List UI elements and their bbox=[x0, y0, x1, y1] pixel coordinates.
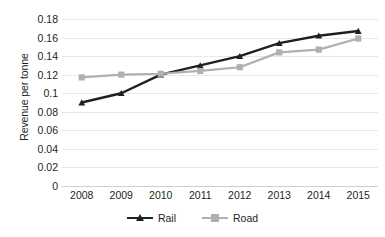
gridline bbox=[62, 186, 378, 187]
series-road bbox=[79, 35, 362, 80]
y-axis-tick-label: 0.1 bbox=[22, 88, 58, 98]
data-point-marker bbox=[158, 71, 164, 77]
legend-square-marker-icon bbox=[211, 214, 219, 222]
series-line bbox=[82, 31, 359, 102]
y-axis-tick-label: 0.04 bbox=[22, 144, 58, 154]
legend-label: Rail bbox=[158, 213, 176, 224]
y-axis-tick-label: 0.14 bbox=[22, 51, 58, 61]
chart-legend: RailRoad bbox=[0, 209, 385, 227]
legend-item-road[interactable]: Road bbox=[202, 213, 258, 224]
x-axis-tick-label: 2015 bbox=[335, 189, 381, 202]
x-axis-tick-labels: 20082009201020112012201320142015 bbox=[62, 189, 378, 205]
data-point-marker bbox=[197, 68, 203, 74]
legend-triangle-marker-icon bbox=[136, 214, 144, 221]
legend-swatch-road-icon bbox=[202, 213, 228, 224]
plot-area bbox=[62, 19, 378, 186]
data-point-marker bbox=[276, 49, 282, 55]
legend-swatch-rail-icon bbox=[127, 213, 153, 224]
y-axis-tick-label: 0.02 bbox=[22, 162, 58, 172]
y-axis-tick-label: 0.18 bbox=[22, 14, 58, 24]
y-axis-tick-label: 0 bbox=[22, 181, 58, 191]
data-point-marker bbox=[355, 35, 361, 41]
data-point-marker bbox=[316, 47, 322, 53]
y-axis-tick-labels: 00.020.040.060.080.10.120.140.160.18 bbox=[22, 19, 58, 186]
data-point-marker bbox=[79, 74, 85, 80]
series-rail bbox=[78, 28, 361, 106]
legend-label: Road bbox=[233, 213, 258, 224]
legend-item-rail[interactable]: Rail bbox=[127, 213, 176, 224]
series-canvas bbox=[62, 19, 378, 186]
data-point-marker bbox=[237, 64, 243, 70]
data-point-marker bbox=[118, 72, 124, 78]
y-axis-tick-label: 0.16 bbox=[22, 33, 58, 43]
y-axis-tick-label: 0.06 bbox=[22, 125, 58, 135]
y-axis-tick-label: 0.08 bbox=[22, 107, 58, 117]
y-axis-tick-label: 0.12 bbox=[22, 70, 58, 80]
revenue-per-tonne-line-chart: Revenue per tonne 00.020.040.060.080.10.… bbox=[0, 0, 385, 237]
